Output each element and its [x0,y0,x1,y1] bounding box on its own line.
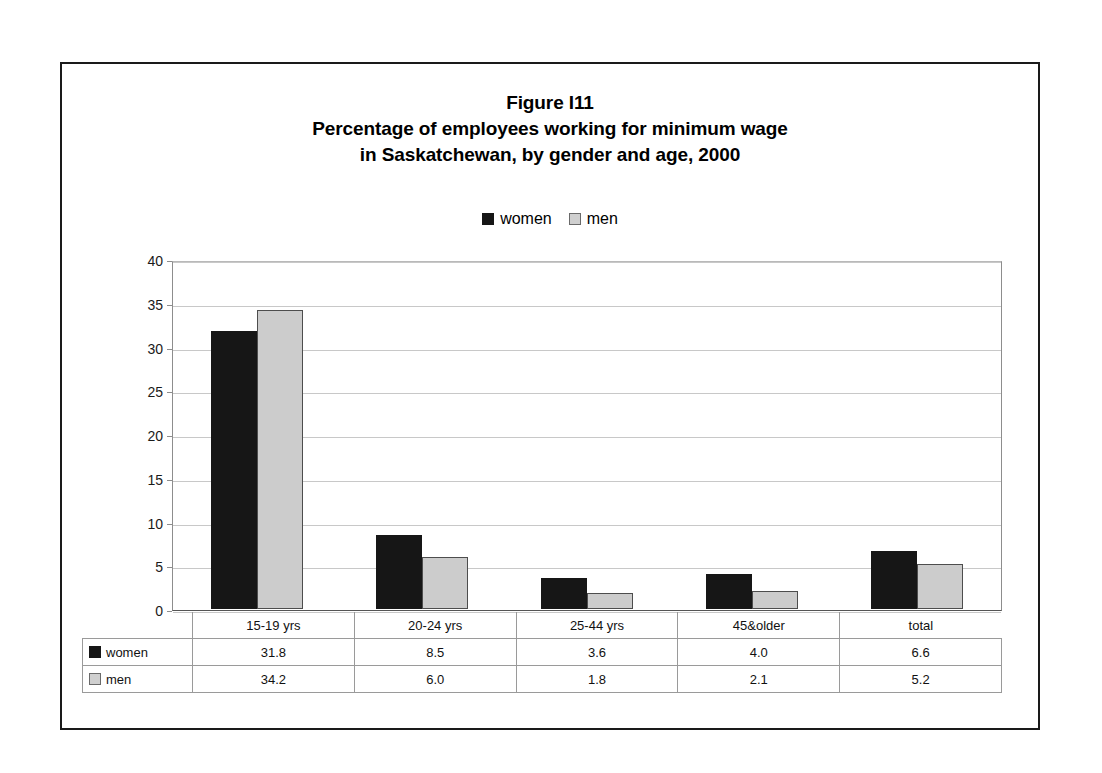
table-row: men34.26.01.82.15.2 [83,666,1002,693]
bars-layer [174,262,1000,609]
bar-women-25-44-yrs[interactable] [541,578,587,610]
data-cell-women-25-44-yrs: 3.6 [516,639,678,666]
y-axis-tick-mark [167,392,172,393]
y-axis-tick-label: 25 [147,384,163,400]
row-label: women [106,645,148,660]
bar-women-45-older[interactable] [706,574,752,609]
data-cell-women-20-24-yrs: 8.5 [354,639,516,666]
legend-item-men: men [569,210,618,228]
chart-legend: women men [62,210,1038,228]
bar-men-20-24-yrs[interactable] [422,557,468,610]
bar-group [339,262,504,609]
data-cell-women-45-older: 4.0 [678,639,840,666]
data-table-row-header-women: women [83,639,193,666]
bar-group [670,262,835,609]
chart-title-line-3: in Saskatchewan, by gender and age, 2000 [62,142,1038,168]
bar-women-total[interactable] [871,551,917,609]
plot-area [172,261,1002,611]
bar-group [504,262,669,609]
gray-square-icon [89,673,101,685]
y-axis-tick-label: 40 [147,253,163,269]
data-cell-men-25-44-yrs: 1.8 [516,666,678,693]
y-axis-tick-mark [167,567,172,568]
y-axis-tick-label: 10 [147,516,163,532]
bar-group [835,262,1000,609]
category-label-15-19-yrs: 15-19 yrs [193,612,355,639]
legend-label-women: women [500,210,552,228]
data-cell-men-20-24-yrs: 6.0 [354,666,516,693]
legend-label-men: men [587,210,618,228]
row-label: men [106,672,131,687]
bar-women-15-19-yrs[interactable] [211,331,257,609]
data-cell-women-15-19-yrs: 31.8 [193,639,355,666]
data-table-header-row: 15-19 yrs20-24 yrs25-44 yrs45&oldertotal [83,612,1002,639]
bar-women-20-24-yrs[interactable] [376,535,422,609]
y-axis-tick-mark [167,349,172,350]
data-cell-men-15-19-yrs: 34.2 [193,666,355,693]
category-label-20-24-yrs: 20-24 yrs [354,612,516,639]
black-square-icon [482,213,494,225]
figure-frame: Figure I11 Percentage of employees worki… [60,62,1040,730]
category-label-total: total [840,612,1002,639]
data-cell-men-45-older: 2.1 [678,666,840,693]
y-axis-tick-mark [167,305,172,306]
category-label-45-older: 45&older [678,612,840,639]
y-axis-tick-mark [167,480,172,481]
y-axis-tick-label: 35 [147,297,163,313]
data-cell-men-total: 5.2 [840,666,1002,693]
bar-group [174,262,339,609]
plot-wrapper: 4035302520151050 [172,261,1002,611]
data-table: 15-19 yrs20-24 yrs25-44 yrs45&oldertotal… [82,612,1002,693]
legend-item-women: women [482,210,552,228]
y-axis-tick-mark [167,524,172,525]
data-table-corner [83,612,193,639]
y-axis-tick-label: 15 [147,472,163,488]
data-cell-women-total: 6.6 [840,639,1002,666]
y-axis-tick-label: 30 [147,341,163,357]
chart-title-line-1: Figure I11 [62,90,1038,116]
chart-title: Figure I11 Percentage of employees worki… [62,90,1038,168]
y-axis-tick-label: 5 [155,559,163,575]
y-axis-tick-mark [167,436,172,437]
gray-square-icon [569,213,581,225]
y-axis-tick-label: 20 [147,428,163,444]
y-axis-tick-mark [167,261,172,262]
bar-men-15-19-yrs[interactable] [257,310,303,609]
chart-title-line-2: Percentage of employees working for mini… [62,116,1038,142]
black-square-icon [89,646,101,658]
category-label-25-44-yrs: 25-44 yrs [516,612,678,639]
bar-men-45-older[interactable] [752,591,798,609]
bar-men-25-44-yrs[interactable] [587,593,633,609]
table-row: women31.88.53.64.06.6 [83,639,1002,666]
data-table-row-header-men: men [83,666,193,693]
bar-men-total[interactable] [917,564,963,610]
